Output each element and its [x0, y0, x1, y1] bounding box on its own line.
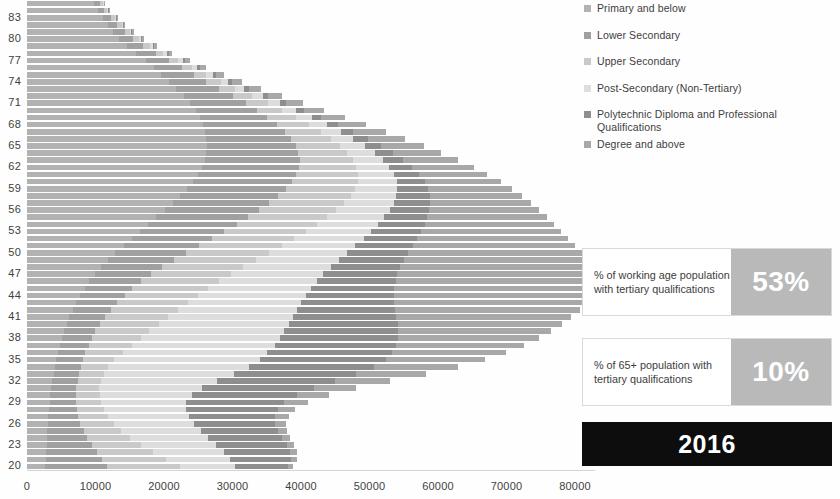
bar-segment[interactable] — [89, 278, 141, 284]
bar-segment[interactable] — [27, 93, 184, 99]
bar-segment[interactable] — [27, 314, 69, 320]
bar-segment[interactable] — [27, 449, 46, 455]
bar-row[interactable] — [27, 200, 531, 206]
bar-segment[interactable] — [47, 435, 87, 441]
bar-segment[interactable] — [101, 264, 162, 270]
bar-segment[interactable] — [101, 400, 187, 406]
bar-row[interactable] — [27, 100, 303, 106]
bar-segment[interactable] — [221, 79, 229, 85]
bar-segment[interactable] — [202, 385, 314, 391]
bar-segment[interactable] — [47, 442, 92, 448]
bar-segment[interactable] — [208, 435, 282, 441]
bar-segment[interactable] — [293, 314, 396, 320]
bar-row[interactable] — [27, 321, 562, 327]
bar-segment[interactable] — [321, 115, 345, 121]
bar-segment[interactable] — [233, 93, 252, 99]
bar-row[interactable] — [27, 449, 297, 455]
bar-segment[interactable] — [190, 100, 245, 106]
bar-segment[interactable] — [77, 407, 104, 413]
bar-segment[interactable] — [46, 449, 97, 455]
bar-segment[interactable] — [306, 293, 394, 299]
bar-segment[interactable] — [287, 442, 294, 448]
bar-segment[interactable] — [27, 115, 200, 121]
bar-segment[interactable] — [108, 364, 248, 370]
bar-segment[interactable] — [198, 293, 306, 299]
bar-segment[interactable] — [27, 65, 154, 71]
bar-segment[interactable] — [285, 129, 321, 135]
bar-segment[interactable] — [97, 449, 153, 455]
bar-row[interactable] — [27, 65, 206, 71]
bar-segment[interactable] — [339, 257, 405, 263]
bar-segment[interactable] — [267, 350, 392, 356]
bar-segment[interactable] — [132, 343, 274, 349]
bar-segment[interactable] — [27, 343, 60, 349]
bar-segment[interactable] — [27, 207, 165, 213]
bar-row[interactable] — [27, 122, 366, 128]
bar-row[interactable] — [27, 421, 286, 427]
bar-segment[interactable] — [260, 357, 386, 363]
bar-segment[interactable] — [347, 250, 408, 256]
bar-segment[interactable] — [294, 236, 363, 242]
bar-segment[interactable] — [117, 300, 187, 306]
bar-segment[interactable] — [27, 15, 103, 21]
legend-item[interactable]: Primary and below — [584, 2, 840, 15]
bar-segment[interactable] — [193, 179, 292, 185]
bar-segment[interactable] — [92, 335, 141, 341]
bar-segment[interactable] — [429, 207, 539, 213]
bar-segment[interactable] — [336, 207, 389, 213]
legend-item[interactable]: Degree and above — [584, 138, 840, 151]
bar-segment[interactable] — [403, 157, 458, 163]
bar-segment[interactable] — [205, 157, 300, 163]
legend-item[interactable]: Polytechnic Diploma and Professional Qua… — [584, 108, 840, 134]
bar-segment[interactable] — [156, 51, 164, 57]
bar-segment[interactable] — [162, 264, 243, 270]
bar-row[interactable] — [27, 271, 595, 277]
bar-segment[interactable] — [202, 165, 299, 171]
bar-segment[interactable] — [397, 186, 428, 192]
bar-segment[interactable] — [400, 264, 592, 270]
bar-segment[interactable] — [356, 371, 425, 377]
bar-segment[interactable] — [166, 457, 230, 463]
bar-segment[interactable] — [81, 364, 108, 370]
bar-segment[interactable] — [27, 293, 80, 299]
bar-segment[interactable] — [141, 278, 219, 284]
bar-segment[interactable] — [27, 414, 48, 420]
bar-segment[interactable] — [312, 115, 321, 121]
bar-segment[interactable] — [282, 435, 290, 441]
bar-segment[interactable] — [311, 286, 394, 292]
bar-segment[interactable] — [159, 321, 289, 327]
bar-segment[interactable] — [286, 100, 303, 106]
bar-row[interactable] — [27, 79, 242, 85]
bar-row[interactable] — [27, 278, 596, 284]
bar-segment[interactable] — [194, 72, 206, 78]
bar-row[interactable] — [27, 250, 582, 256]
bar-row[interactable] — [27, 93, 282, 99]
bar-segment[interactable] — [27, 143, 207, 149]
bar-segment[interactable] — [46, 457, 102, 463]
bar-segment[interactable] — [280, 335, 398, 341]
bar-row[interactable] — [27, 293, 592, 299]
bar-segment[interactable] — [154, 43, 157, 49]
bar-segment[interactable] — [364, 236, 418, 242]
bar-segment[interactable] — [27, 150, 206, 156]
bar-row[interactable] — [27, 172, 487, 178]
bar-segment[interactable] — [353, 129, 385, 135]
bar-segment[interactable] — [237, 222, 318, 228]
bar-segment[interactable] — [381, 143, 423, 149]
bar-segment[interactable] — [321, 129, 341, 135]
bar-segment[interactable] — [371, 229, 421, 235]
bar-segment[interactable] — [85, 350, 123, 356]
bar-segment[interactable] — [200, 115, 268, 121]
bar-segment[interactable] — [27, 328, 64, 334]
bar-segment[interactable] — [394, 286, 595, 292]
bar-segment[interactable] — [27, 378, 52, 384]
bar-segment[interactable] — [27, 257, 108, 263]
bar-segment[interactable] — [27, 58, 146, 64]
bar-segment[interactable] — [154, 65, 182, 71]
bar-segment[interactable] — [317, 278, 396, 284]
bar-segment[interactable] — [27, 214, 156, 220]
bar-segment[interactable] — [100, 321, 159, 327]
bar-segment[interactable] — [309, 122, 327, 128]
bar-segment[interactable] — [121, 428, 200, 434]
bar-segment[interactable] — [27, 79, 169, 85]
